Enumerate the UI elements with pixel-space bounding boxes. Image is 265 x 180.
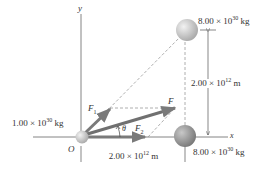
theta-arc <box>116 126 120 137</box>
right-mass-label: 8.00 × 1030 kg <box>193 148 245 157</box>
mantissa: 8.00 <box>198 16 214 26</box>
times: × <box>216 16 221 26</box>
origin-label: O <box>68 145 75 154</box>
exponent: 30 <box>46 117 52 123</box>
F2-label: F2 <box>135 124 144 135</box>
exponent: 12 <box>143 150 149 156</box>
ten: 10 <box>218 147 227 157</box>
top-mass-sphere <box>176 19 198 41</box>
F1-label: F1 <box>88 104 97 115</box>
mantissa: 8.00 <box>193 147 209 157</box>
ten: 10 <box>223 16 232 26</box>
ten: 10 <box>37 118 46 128</box>
y-axis-label: y <box>78 4 82 13</box>
mantissa: 2.00 <box>109 151 125 161</box>
theta-label: θ <box>122 125 126 133</box>
times: × <box>209 78 214 88</box>
right-mass-sphere <box>174 125 196 147</box>
unit: kg <box>236 147 245 157</box>
origin-mass-label: 1.00 × 1030 kg <box>12 119 64 128</box>
unit: kg <box>55 118 64 128</box>
subscript: 2 <box>141 129 144 135</box>
mantissa: 1.00 <box>12 118 28 128</box>
origin-mass-sphere <box>76 131 89 144</box>
exponent: 12 <box>225 77 231 83</box>
horizontal-distance-label: 2.00 × 1012 m <box>82 152 185 161</box>
vertical-distance-label: 2.00 × 1012 m <box>191 79 241 88</box>
ten: 10 <box>134 151 143 161</box>
times: × <box>30 118 35 128</box>
ten: 10 <box>216 78 225 88</box>
subscript: 1 <box>94 109 97 115</box>
times: × <box>127 151 132 161</box>
x-axis-label: x <box>230 132 234 140</box>
exponent: 30 <box>232 15 238 21</box>
times: × <box>211 147 216 157</box>
physics-diagram: y x O 1.00 × 1030 kg 8.00 × 1030 kg 8.00… <box>0 0 265 180</box>
mantissa: 2.00 <box>191 78 207 88</box>
F-label: F <box>168 97 174 106</box>
exponent: 30 <box>227 146 233 152</box>
unit: m <box>151 151 158 161</box>
unit: m <box>234 78 241 88</box>
unit: kg <box>241 16 250 26</box>
top-mass-label: 8.00 × 1030 kg <box>198 17 250 26</box>
